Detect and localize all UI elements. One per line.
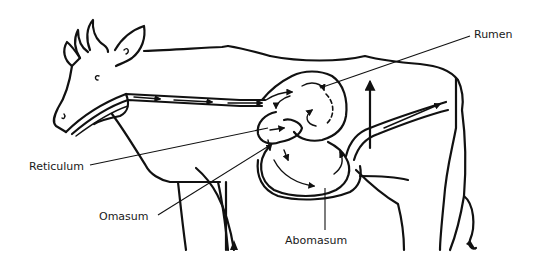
leader-omasum — [158, 144, 272, 215]
leader-reticulum — [90, 128, 268, 165]
omasum-label: Omasum — [99, 210, 149, 223]
abomasum-label: Abomasum — [285, 234, 347, 247]
cow-back — [270, 56, 463, 110]
cow-digestive-diagram: Rumen Reticulum Omasum Abomasum — [0, 0, 541, 268]
reticulum — [258, 112, 302, 144]
cow-line-drawing — [0, 0, 541, 268]
front-body — [112, 114, 238, 250]
stomach — [258, 72, 448, 200]
leader-rumen — [320, 36, 470, 88]
esophagus — [66, 94, 265, 136]
reticulum-label: Reticulum — [29, 160, 84, 173]
rumen — [262, 72, 346, 141]
rumen-label: Rumen — [474, 28, 513, 41]
abomasum — [261, 142, 349, 196]
